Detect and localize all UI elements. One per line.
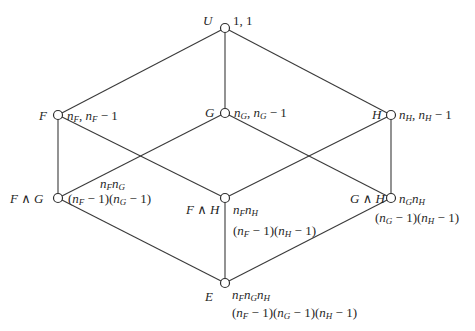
annotation-E-product: nFnGnH bbox=[232, 288, 270, 303]
label-F-and-G: F ∧ G bbox=[10, 192, 43, 205]
annotation-E-edges: (nF − 1)(nG − 1)(nH − 1) bbox=[232, 306, 357, 321]
annotation-F-and-H-product: nFnH bbox=[233, 203, 258, 218]
node-F-and-H bbox=[221, 194, 230, 203]
node-F-and-G bbox=[54, 194, 63, 203]
label-F-and-H: F ∧ H bbox=[186, 203, 219, 216]
edges bbox=[58, 28, 391, 283]
annotation-F-and-G-edges: (nF − 1)(nG − 1) bbox=[68, 192, 151, 207]
annotation-F-and-H-edges: (nF − 1)(nH − 1) bbox=[233, 224, 316, 239]
label-G: G bbox=[205, 106, 214, 119]
node-E bbox=[221, 279, 230, 288]
label-U: U bbox=[203, 14, 212, 27]
edge-U-F bbox=[58, 28, 225, 115]
annotation-G: nG, nG − 1 bbox=[234, 106, 287, 121]
edge-U-H bbox=[225, 28, 391, 115]
annotation-U: 1, 1 bbox=[233, 14, 253, 27]
annotation-F: nF, nF − 1 bbox=[67, 109, 118, 124]
annotation-F-and-G-product: nFnG bbox=[100, 177, 125, 192]
label-H: H bbox=[372, 108, 381, 121]
annotation-H: nH, nH − 1 bbox=[399, 108, 452, 123]
label-F: F bbox=[39, 109, 47, 122]
node-G-and-H bbox=[387, 194, 396, 203]
annotation-G-and-H-edges: (nG − 1)(nH − 1) bbox=[375, 211, 459, 226]
node-U bbox=[221, 24, 230, 33]
node-F bbox=[54, 111, 63, 120]
label-E: E bbox=[205, 290, 213, 303]
node-H bbox=[387, 111, 396, 120]
annotation-G-and-H-product: nGnH bbox=[399, 192, 425, 207]
lattice-diagram bbox=[0, 0, 475, 331]
node-G bbox=[221, 109, 230, 118]
label-G-and-H: G ∧ H bbox=[350, 192, 385, 205]
